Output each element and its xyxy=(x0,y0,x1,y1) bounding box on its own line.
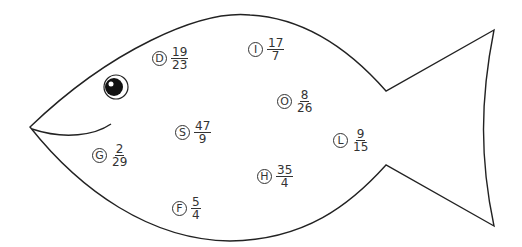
fraction-denominator: 23 xyxy=(171,59,188,71)
letter-fraction-item: L915 xyxy=(333,128,369,153)
circled-letter: L xyxy=(333,133,348,148)
letter-fraction-item: F54 xyxy=(172,196,201,221)
fraction: 1923 xyxy=(171,46,188,71)
fish-eye xyxy=(104,75,128,99)
circled-letter: O xyxy=(277,94,292,109)
letter-fraction-item: O826 xyxy=(277,89,313,114)
fraction: 479 xyxy=(194,120,211,145)
fraction-denominator: 9 xyxy=(198,133,208,145)
letter-fraction-item: S479 xyxy=(175,120,211,145)
circled-letter: H xyxy=(257,169,272,184)
circled-letter: S xyxy=(175,125,190,140)
fraction-denominator: 29 xyxy=(111,156,128,168)
letter-fraction-item: H354 xyxy=(257,164,293,189)
circled-letter: I xyxy=(248,42,263,57)
fraction-denominator: 15 xyxy=(352,141,369,153)
fraction: 177 xyxy=(267,37,284,62)
letter-fraction-item: G229 xyxy=(92,143,128,168)
letter-fraction-item: D1923 xyxy=(152,46,188,71)
circled-letter: F xyxy=(172,201,187,216)
fraction: 54 xyxy=(191,196,201,221)
fraction: 915 xyxy=(352,128,369,153)
fraction: 354 xyxy=(276,164,293,189)
fraction-denominator: 4 xyxy=(280,177,290,189)
fraction-denominator: 26 xyxy=(296,102,313,114)
circled-letter: G xyxy=(92,148,107,163)
circled-letter: D xyxy=(152,51,167,66)
fraction-denominator: 7 xyxy=(271,50,281,62)
fraction: 826 xyxy=(296,89,313,114)
fraction: 229 xyxy=(111,143,128,168)
fraction-denominator: 4 xyxy=(191,209,201,221)
letter-fraction-item: I177 xyxy=(248,37,284,62)
